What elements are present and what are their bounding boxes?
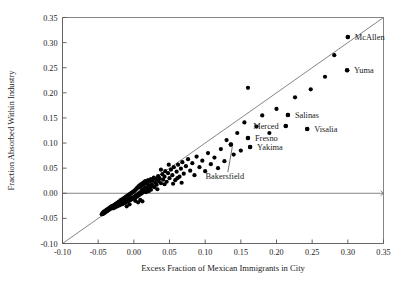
scatter-chart: -0.10-0.050.000.050.100.150.200.250.300.…	[0, 0, 420, 292]
y-tick-label: 0.10	[43, 139, 57, 148]
data-point	[133, 199, 137, 203]
y-tick-label: 0.05	[43, 164, 57, 173]
data-point	[212, 156, 216, 160]
data-point	[162, 175, 166, 179]
x-tick-label: -0.05	[90, 248, 107, 257]
data-point	[274, 107, 278, 111]
x-tick-label: 0.05	[162, 248, 176, 257]
y-tick-label: 0.25	[43, 64, 57, 73]
data-point	[190, 161, 194, 165]
labeled-data-point	[286, 113, 291, 118]
point-annotations-group: McAllenYumaSalinasMercedVisaliaFresnoYak…	[206, 33, 386, 181]
data-point	[246, 86, 250, 90]
point-label-bakersfield: Bakersfield	[206, 172, 245, 181]
x-tick-label: 0.25	[305, 248, 319, 257]
y-tick-label: 0.35	[43, 14, 57, 23]
x-tick-label: 0.00	[127, 248, 141, 257]
labeled-data-point	[246, 136, 251, 141]
data-point	[235, 131, 239, 135]
data-point	[149, 188, 153, 192]
data-point	[293, 95, 297, 99]
data-point	[155, 187, 159, 191]
x-tick-label: 0.35	[376, 248, 390, 257]
data-point	[186, 157, 190, 161]
x-tick-label: 0.20	[269, 248, 283, 257]
point-label-fresno: Fresno	[255, 134, 278, 143]
data-point	[171, 182, 175, 186]
data-point	[144, 190, 148, 194]
data-point	[323, 75, 327, 79]
data-point	[219, 147, 223, 151]
data-point	[170, 173, 174, 177]
x-tick-label: 0.10	[198, 248, 212, 257]
data-point	[242, 120, 246, 124]
data-point	[224, 138, 228, 142]
labeled-data-point	[248, 145, 253, 150]
labeled-data-point	[284, 124, 289, 129]
data-point	[179, 167, 183, 171]
data-point	[332, 53, 336, 57]
y-tick-label: 0.30	[43, 39, 57, 48]
data-point	[167, 163, 171, 167]
data-point	[182, 172, 186, 176]
labeled-data-point	[305, 127, 310, 132]
data-point	[176, 163, 180, 167]
data-point	[222, 159, 226, 163]
data-points-group	[100, 35, 350, 216]
point-label-visalia: Visalia	[314, 125, 338, 134]
data-point	[184, 164, 188, 168]
data-point	[175, 176, 179, 180]
data-point	[125, 204, 129, 208]
data-point	[145, 182, 149, 186]
data-point	[260, 113, 264, 117]
y-tick-label: 0.00	[43, 189, 57, 198]
annotation-leader-line	[228, 147, 233, 173]
labeled-data-point	[345, 68, 350, 73]
point-label-salinas: Salinas	[295, 111, 319, 120]
y-tick-label: 0.20	[43, 89, 57, 98]
point-label-yakima: Yakima	[257, 143, 283, 152]
data-point	[180, 160, 184, 164]
data-point	[209, 162, 213, 166]
x-tick-label: -0.10	[54, 248, 71, 257]
data-point	[309, 87, 313, 91]
data-point	[162, 182, 166, 186]
data-point	[206, 151, 210, 155]
data-point	[216, 166, 220, 170]
data-point	[166, 171, 170, 175]
data-point	[195, 155, 199, 159]
data-point	[159, 181, 163, 185]
labeled-data-point	[346, 35, 351, 40]
data-point	[239, 148, 243, 152]
data-point	[200, 159, 204, 163]
data-point	[188, 169, 192, 173]
point-label-merced: Merced	[253, 122, 279, 131]
chart-canvas: -0.10-0.050.000.050.100.150.200.250.300.…	[0, 0, 420, 292]
x-tick-label: 0.15	[234, 248, 248, 257]
data-point	[232, 153, 236, 157]
y-tick-label: -0.05	[40, 214, 57, 223]
point-label-mcallen: McAllen	[355, 33, 386, 42]
labeled-data-point	[229, 142, 234, 147]
data-point	[172, 165, 176, 169]
tick-labels-group: -0.10-0.050.000.050.100.150.200.250.300.…	[40, 14, 390, 258]
x-axis-title: Excess Fraction of Mexican Immigrants in…	[141, 263, 305, 273]
data-point	[159, 168, 163, 172]
x-tick-label: 0.30	[341, 248, 355, 257]
y-tick-label: -0.10	[40, 240, 57, 249]
data-point	[175, 170, 179, 174]
y-tick-label: 0.15	[43, 114, 57, 123]
data-point	[180, 181, 184, 185]
data-point	[192, 173, 196, 177]
data-point	[197, 165, 201, 169]
point-label-yuma: Yuma	[354, 66, 374, 75]
y-axis-title: Fraction Absorbed Within Industry	[6, 70, 16, 191]
